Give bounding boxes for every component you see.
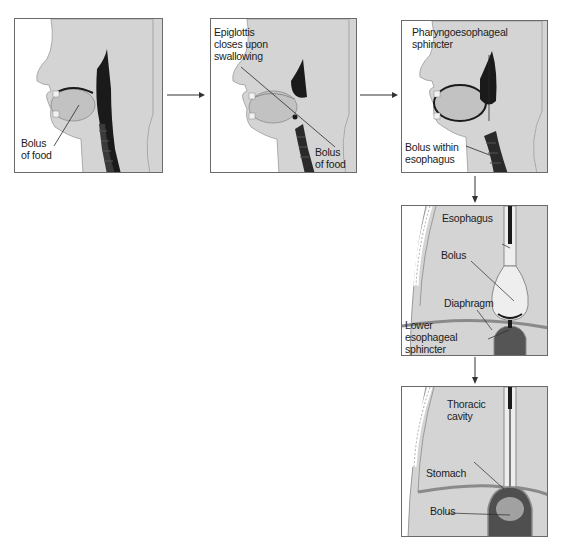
label-bolus-of-food: Bolus of food — [21, 137, 52, 161]
label-epiglottis-closes: Epiglottis closes upon swallowing — [214, 26, 268, 62]
panel-stomach-stage: Thoracic cavity Stomach Bolus — [401, 386, 548, 537]
arrow-down-icon — [470, 176, 480, 204]
panel-sphincter-stage: Pharyngoesophageal sphincter Bolus withi… — [401, 20, 548, 173]
label-bolus-within-esophagus: Bolus within esophagus — [405, 141, 459, 165]
label-pharyngoesophageal-sphincter: Pharyngoesophageal sphincter — [412, 26, 508, 50]
panel-esophageal-stage: Esophagus Bolus Diaphragm Lower esophage… — [401, 205, 548, 356]
label-diaphragm: Diaphragm — [444, 297, 494, 309]
label-bolus: Bolus — [430, 505, 455, 517]
label-esophagus: Esophagus — [442, 212, 493, 224]
panel-oral-stage: Bolus of food — [14, 18, 163, 173]
arrow-down-icon — [470, 357, 480, 385]
arrow-right-icon — [167, 90, 207, 100]
panel-epiglottis-stage: Epiglottis closes upon swallowing Bolus … — [210, 18, 357, 173]
label-lower-esophageal-sphincter: Lower esophageal sphincter — [405, 319, 457, 355]
label-stomach: Stomach — [426, 467, 466, 479]
label-thoracic-cavity: Thoracic cavity — [447, 398, 486, 422]
arrow-right-icon — [360, 90, 400, 100]
label-bolus-of-food: Bolus of food — [315, 146, 346, 170]
label-bolus: Bolus — [441, 249, 466, 261]
